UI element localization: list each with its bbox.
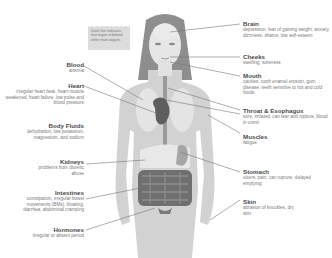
label-title: Kidneys xyxy=(34,158,84,165)
label-desc: depression, fear of gaining weight, anxi… xyxy=(243,27,331,38)
label-desc: constipation, irregular bowel movements … xyxy=(8,196,84,213)
label-blood: Blood anemia xyxy=(4,61,84,74)
label-desc: irregular or absent period xyxy=(4,233,84,239)
label-title: Blood xyxy=(4,61,84,68)
label-muscles: Muscles fatigue xyxy=(243,133,331,146)
label-title: Brain xyxy=(243,20,331,27)
label-cheeks: Cheeks swelling, soreness xyxy=(243,53,331,66)
label-body-fluids: Body Fluids dehydration, low potassium, … xyxy=(14,122,84,140)
label-title: Cheeks xyxy=(243,53,331,60)
label-title: Skin xyxy=(243,198,303,205)
label-title: Heart xyxy=(0,82,84,89)
label-hormones: Hormones irregular or absent period xyxy=(4,226,84,239)
label-throat-esophagus: Throat & Esophagus sore, irritated, can … xyxy=(243,107,331,125)
label-stomach: Stomach ulcers, pain, can rupture, delay… xyxy=(243,168,313,186)
label-title: Body Fluids xyxy=(14,122,84,129)
label-kidneys: Kidneys problems from diuretic abuse xyxy=(34,158,84,176)
label-title: Throat & Esophagus xyxy=(243,107,331,114)
label-mouth: Mouth cavities, tooth enamel erosion, gu… xyxy=(243,72,331,96)
label-desc: abrasion of knuckles, dry skin xyxy=(243,205,303,216)
label-desc: problems from diuretic abuse xyxy=(34,165,84,176)
label-desc: ulcers, pain, can rupture, delayed empty… xyxy=(243,175,313,186)
label-desc: anemia xyxy=(4,68,84,74)
label-intestines: Intestines constipation, irregular bowel… xyxy=(8,189,84,213)
infographic: Dash line indicates that organ is behind… xyxy=(0,0,332,258)
note-box: Dash line indicates that organ is behind… xyxy=(88,26,130,50)
label-title: Stomach xyxy=(243,168,313,175)
label-desc: cavities, tooth enamel erosion, gum dise… xyxy=(243,79,331,96)
label-desc: dehydration, low potassium, magnesium, a… xyxy=(14,129,84,140)
label-title: Mouth xyxy=(243,72,331,79)
label-desc: irregular heart beat, heart muscle weake… xyxy=(0,89,84,106)
brain-icon xyxy=(153,24,177,40)
label-heart: Heart irregular heart beat, heart muscle… xyxy=(0,82,84,106)
label-title: Muscles xyxy=(243,133,331,140)
label-skin: Skin abrasion of knuckles, dry skin xyxy=(243,198,303,216)
label-desc: fatigue xyxy=(243,140,331,146)
label-brain: Brain depression, fear of gaining weight… xyxy=(243,20,331,38)
label-desc: sore, irritated, can tear and rupture, b… xyxy=(243,114,331,125)
label-title: Intestines xyxy=(8,189,84,196)
label-desc: swelling, soreness xyxy=(243,60,331,66)
label-title: Hormones xyxy=(4,226,84,233)
